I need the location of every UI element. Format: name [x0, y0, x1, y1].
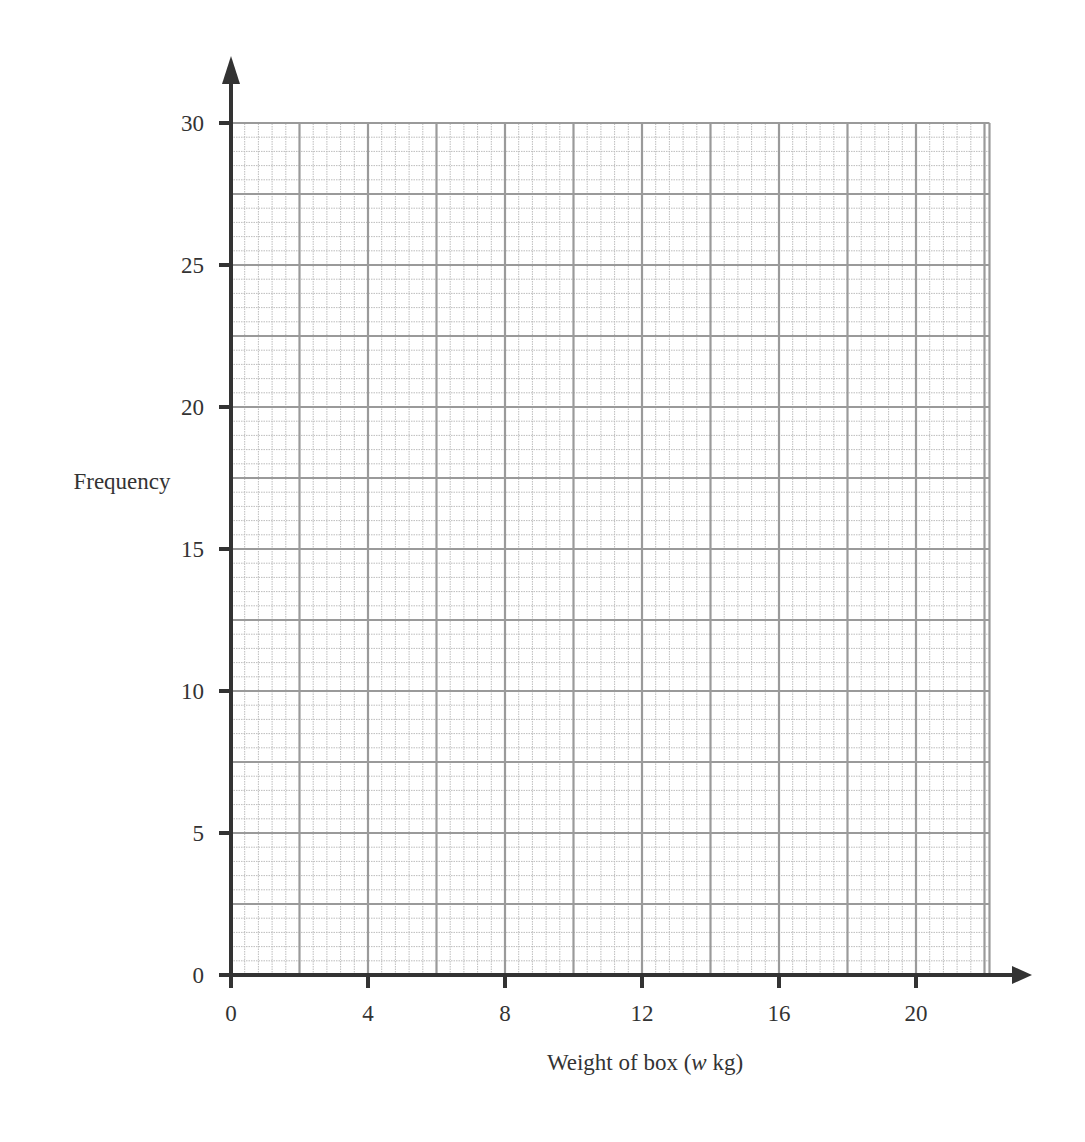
y-tick-label: 30 — [181, 111, 204, 136]
x-tick-label: 8 — [499, 1001, 511, 1026]
y-axis-label: Frequency — [73, 469, 171, 494]
x-tick-labels: 048121620 — [225, 1001, 927, 1026]
x-tick-label: 12 — [631, 1001, 654, 1026]
x-tick-label: 16 — [768, 1001, 791, 1026]
y-tick-labels: 051015202530 — [181, 111, 204, 988]
x-tick-label: 0 — [225, 1001, 237, 1026]
x-axis-label-variable: w — [691, 1050, 707, 1075]
histogram-axes-chart: 051015202530 048121620 Frequency Weight … — [0, 0, 1085, 1142]
y-tick-label: 20 — [181, 395, 204, 420]
y-tick-label: 15 — [181, 537, 204, 562]
x-tick-label: 4 — [362, 1001, 374, 1026]
x-axis-label: Weight of box (w kg) — [547, 1050, 743, 1075]
x-axis-arrowhead-icon — [1012, 966, 1032, 984]
x-axis-label-part1: Weight of box ( — [547, 1050, 691, 1075]
y-axis-arrowhead-icon — [222, 56, 240, 84]
x-axis-label-part2: kg) — [707, 1050, 743, 1075]
y-tick-label: 0 — [193, 963, 205, 988]
x-tick-label: 20 — [905, 1001, 928, 1026]
y-tick-label: 25 — [181, 253, 204, 278]
y-tick-label: 5 — [193, 821, 205, 846]
axis-ticks — [219, 123, 916, 988]
y-tick-label: 10 — [181, 679, 204, 704]
